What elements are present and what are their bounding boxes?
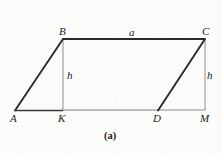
geometry-figure: A B C D K M a h h (a) <box>0 0 222 153</box>
vertex-label-d: D <box>153 113 161 124</box>
vertex-label-a: A <box>10 113 17 124</box>
segment-cd-side <box>158 39 205 111</box>
height-label-h-right: h <box>207 70 213 81</box>
vertex-label-c: C <box>202 26 209 37</box>
vertex-label-k: K <box>58 113 65 124</box>
height-label-h-left: h <box>67 70 73 81</box>
figure-caption: (a) <box>104 131 116 142</box>
vertex-label-b: B <box>59 26 66 37</box>
vertex-label-m: M <box>200 113 209 124</box>
segment-ab-side <box>15 39 63 111</box>
side-length-label-a: a <box>129 27 135 38</box>
